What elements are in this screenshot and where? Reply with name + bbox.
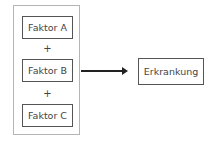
factor-a-box: Faktor A: [22, 16, 73, 39]
result-label: Erkrankung: [144, 66, 198, 77]
factor-c-label: Faktor C: [28, 110, 67, 121]
factor-a-label: Faktor A: [28, 22, 67, 33]
plus-operator-2: +: [22, 89, 73, 99]
arrow-line: [81, 70, 123, 72]
plus-operator-1: +: [22, 44, 73, 54]
factor-c-box: Faktor C: [22, 104, 73, 127]
arrow-head-icon: [122, 67, 128, 75]
factor-b-box: Faktor B: [22, 59, 73, 82]
result-box: Erkrankung: [138, 58, 204, 85]
factor-b-label: Faktor B: [28, 65, 67, 76]
